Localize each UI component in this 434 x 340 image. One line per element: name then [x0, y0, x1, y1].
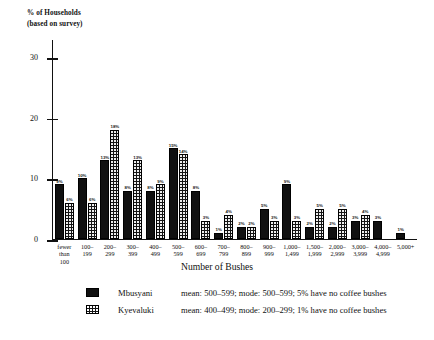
bar: 2% — [247, 227, 256, 239]
bar-fill — [146, 191, 155, 239]
bar-group: 3%4% — [349, 40, 372, 239]
bar-value-label: 3% — [203, 215, 209, 220]
bar-fill — [328, 227, 337, 239]
y-tick-label: 20 — [30, 115, 38, 123]
bar-group: 5%3% — [258, 40, 281, 239]
bar: 5% — [260, 209, 269, 239]
bar-group: 8%9% — [144, 40, 167, 239]
bar-value-label: 13% — [133, 155, 142, 160]
bar-group: 2%5% — [326, 40, 349, 239]
bar-fill — [282, 184, 291, 239]
bar: 2% — [237, 227, 246, 239]
bar-value-label: 3% — [375, 215, 381, 220]
bar-value-label: 8% — [124, 185, 130, 190]
bar-group: 2%5% — [303, 40, 326, 239]
chart-legend: Mbusyanimean: 500–599; mode: 500–599; 5%… — [86, 284, 387, 318]
bar-value-label: 2% — [238, 221, 244, 226]
bar-fill — [110, 130, 119, 239]
bar-fill — [292, 221, 301, 239]
bar: 3% — [351, 221, 360, 239]
bar-group: 3% — [372, 40, 395, 239]
bar-fill — [260, 209, 269, 239]
bar-value-label: 9% — [157, 179, 163, 184]
bar-value-label: 8% — [193, 185, 199, 190]
plot-area: 0102030 9%6%10%6%13%18%8%13%8%9%15%14%8%… — [52, 40, 417, 240]
bar-value-label: 10% — [78, 173, 87, 178]
bar: 1% — [396, 233, 405, 239]
x-axis-line — [52, 239, 417, 240]
bar: 8% — [123, 191, 132, 239]
legend-series-name: Kyevaluki — [118, 305, 181, 315]
bar-fill — [169, 148, 178, 239]
bar-fill — [133, 160, 142, 239]
bar-value-label: 18% — [110, 124, 119, 129]
bar-group: 1% — [394, 40, 417, 239]
bar-value-label: 1% — [215, 227, 221, 232]
bar-groups: 9%6%10%6%13%18%8%13%8%9%15%14%8%3%1%4%2%… — [53, 40, 417, 239]
legend-series-description: mean: 400–499; mode: 200–299; 1% have no… — [181, 305, 387, 315]
bar-value-label: 6% — [89, 197, 95, 202]
bar: 15% — [169, 148, 178, 239]
bar: 3% — [201, 221, 210, 239]
bar-fill — [100, 160, 109, 239]
bar-fill — [123, 191, 132, 239]
bar-value-label: 1% — [397, 227, 403, 232]
bar-fill — [247, 227, 256, 239]
legend-item: Kyevalukimean: 400–499; mode: 200–299; 1… — [86, 301, 387, 318]
bar-value-label: 9% — [56, 179, 62, 184]
bar: 9% — [156, 184, 165, 239]
bar-fill — [224, 215, 233, 239]
bar-fill — [156, 184, 165, 239]
y-tick-label: 0 — [34, 236, 38, 244]
bar: 14% — [179, 154, 188, 239]
bar-fill — [361, 215, 370, 239]
bar-value-label: 4% — [225, 209, 231, 214]
bar-value-label: 5% — [339, 203, 345, 208]
y-tick-label: 30 — [30, 54, 38, 62]
bar-fill — [237, 227, 246, 239]
bar: 3% — [270, 221, 279, 239]
bar: 4% — [224, 215, 233, 239]
bar: 6% — [88, 203, 97, 239]
bar-group: 13%18% — [99, 40, 122, 239]
bar: 4% — [361, 215, 370, 239]
bar-group: 2%2% — [235, 40, 258, 239]
bar-value-label: 2% — [306, 221, 312, 226]
bar-value-label: 3% — [271, 215, 277, 220]
bar: 10% — [78, 178, 87, 239]
bar: 9% — [282, 184, 291, 239]
bar-value-label: 5% — [316, 203, 322, 208]
bar-fill — [305, 227, 314, 239]
bar-fill — [201, 221, 210, 239]
bar-value-label: 6% — [66, 197, 72, 202]
bar-group: 1%4% — [212, 40, 235, 239]
bar: 5% — [315, 209, 324, 239]
x-axis-title: Number of Bushes — [0, 261, 434, 272]
bar-value-label: 8% — [147, 185, 153, 190]
bar: 13% — [133, 160, 142, 239]
bar: 2% — [305, 227, 314, 239]
bar-value-label: 15% — [169, 143, 178, 148]
bar-fill — [315, 209, 324, 239]
bar: 13% — [100, 160, 109, 239]
bar-fill — [55, 184, 64, 239]
bar-fill — [396, 233, 405, 239]
bar-value-label: 13% — [100, 155, 109, 160]
bar: 3% — [292, 221, 301, 239]
bar-fill — [65, 203, 74, 239]
bar-group: 8%3% — [190, 40, 213, 239]
bar-group: 9%6% — [53, 40, 76, 239]
bar-value-label: 3% — [352, 215, 358, 220]
bar: 5% — [338, 209, 347, 239]
bar-fill — [88, 203, 97, 239]
bar: 9% — [55, 184, 64, 239]
bar-value-label: 14% — [179, 149, 188, 154]
legend-swatch-mbusyani — [86, 288, 99, 297]
y-axis-title: % of Households (based on survey) — [27, 8, 83, 29]
bar-value-label: 4% — [362, 209, 368, 214]
bar: 8% — [146, 191, 155, 239]
bar-fill — [351, 221, 360, 239]
y-tick: 0 — [47, 240, 58, 242]
bar-value-label: 5% — [261, 203, 267, 208]
legend-item: Mbusyanimean: 500–599; mode: 500–599; 5%… — [86, 284, 387, 301]
